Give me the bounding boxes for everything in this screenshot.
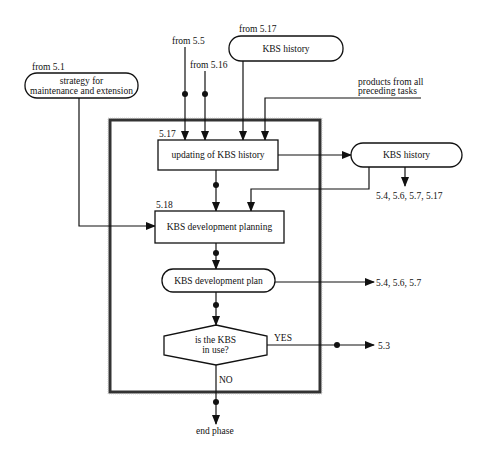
decision-line1: is the KBS — [164, 335, 267, 345]
label-from-5-17: from 5.17 — [239, 24, 276, 34]
connector-dot-no — [213, 399, 219, 405]
label-from-5-1: from 5.1 — [32, 62, 65, 72]
connector-dot-planning — [213, 250, 219, 256]
label-from-5-16: from 5.16 — [190, 60, 227, 70]
kbs-history-input-label: KBS history — [229, 44, 343, 54]
yes-target: 5.3 — [378, 341, 390, 351]
dev-plan-targets: 5.4, 5.6, 5.7 — [376, 278, 421, 288]
dev-plan-label: KBS development plan — [162, 276, 275, 286]
task-planning-label: KBS development planning — [155, 222, 284, 232]
task-updating-label: updating of KBS history — [158, 150, 278, 160]
connector-dot-yes — [334, 342, 340, 348]
kbs-history-output-label: KBS history — [351, 150, 462, 160]
kbs-history-targets: 5.4, 5.6, 5.7, 5.17 — [376, 191, 443, 201]
decision-line2: in use? — [164, 345, 267, 355]
strategy-line1: strategy for — [25, 76, 138, 86]
end-phase-label: end phase — [196, 426, 234, 436]
connector-dot-5-16 — [202, 91, 208, 97]
strategy-line2: maintenance and extension — [25, 86, 138, 96]
connector-dot-update — [213, 182, 219, 188]
connector-dot-plan — [213, 302, 219, 308]
task-id-5-17: 5.17 — [159, 129, 176, 139]
products-line2: preceding tasks — [358, 86, 417, 96]
no-label: NO — [219, 375, 233, 385]
yes-label: YES — [274, 333, 292, 343]
connector-dot-5-5 — [182, 91, 188, 97]
strategy-arrow — [79, 98, 155, 226]
task-id-5-18: 5.18 — [156, 200, 173, 210]
history-to-planning-arrow — [251, 167, 369, 211]
label-from-5-5: from 5.5 — [172, 36, 205, 46]
